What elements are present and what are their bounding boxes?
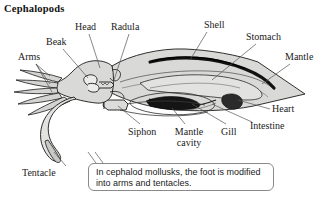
figure-canvas: Cephalopods xyxy=(0,0,325,207)
label-heart: Heart xyxy=(272,104,294,115)
label-gill: Gill xyxy=(221,127,237,138)
leader-callout-pointer-a xyxy=(88,152,96,163)
callout-text: In cephalod mollusks, the foot is modifi… xyxy=(96,167,267,189)
label-radula: Radula xyxy=(111,22,139,33)
callout-box: In cephalod mollusks, the foot is modifi… xyxy=(88,163,274,191)
label-stomach: Stomach xyxy=(246,32,281,43)
label-head: Head xyxy=(75,22,96,33)
leader-callout-pointer-b xyxy=(95,152,103,163)
siphon-group xyxy=(103,100,128,110)
label-tentacle: Tentacle xyxy=(22,168,56,179)
label-intestine: Intestine xyxy=(250,121,284,132)
siphon-funnel xyxy=(103,100,128,110)
label-arms: Arms xyxy=(18,52,40,63)
label-mantle-cavity: Mantle cavity xyxy=(167,127,211,148)
label-beak: Beak xyxy=(46,37,67,48)
beak-lower-loop xyxy=(88,83,99,92)
label-shell: Shell xyxy=(204,20,225,31)
label-mantle: Mantle xyxy=(285,52,313,63)
label-siphon: Siphon xyxy=(128,127,156,138)
arm-2 xyxy=(16,80,58,88)
